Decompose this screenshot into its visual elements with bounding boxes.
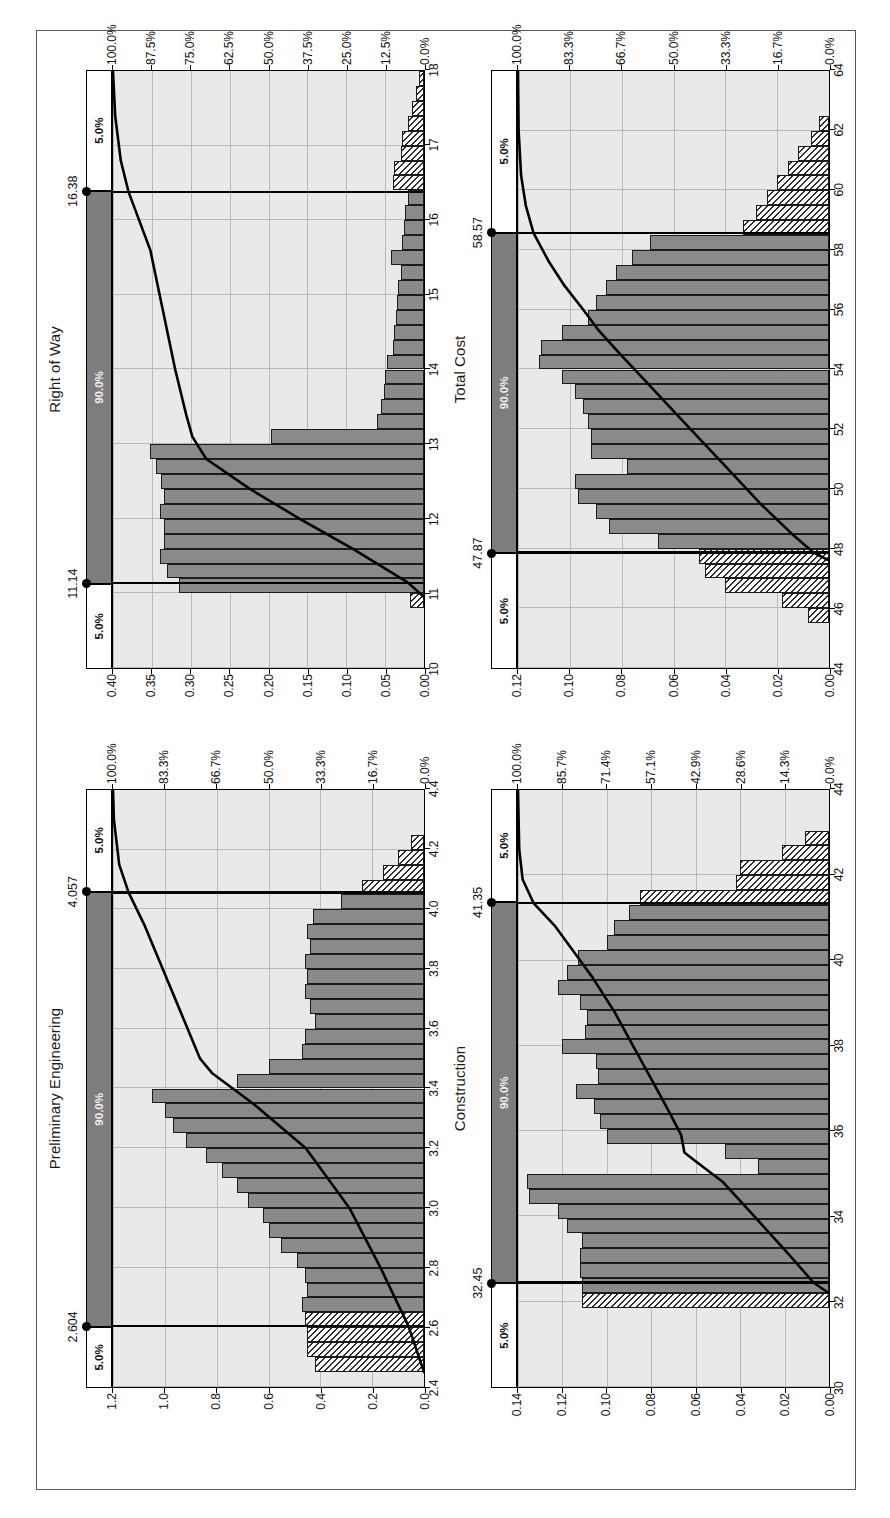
y-axis-cumulative-tick (308, 65, 309, 70)
y-axis-density-tick (373, 1388, 374, 1393)
x-axis-tick-label: 13 (427, 438, 441, 451)
y-axis-density-tick (621, 669, 622, 674)
y-axis-density-tick-label: 1.2 (105, 1393, 119, 1410)
x-axis-tick-label: 64 (832, 63, 846, 76)
y-axis-cumulative-tick-label: 83.3% (562, 31, 576, 65)
y-axis-density-tick-label: 0.2 (366, 1393, 380, 1410)
y-axis-cumulative-tick (621, 65, 622, 70)
percentile-marker-p5 (113, 1325, 424, 1327)
y-axis-cumulative-tick (517, 784, 518, 789)
percentile-value-p95: 41.35 (471, 887, 485, 918)
y-axis-density-tick-label: 0.12 (510, 674, 524, 697)
percentile-marker-p5 (113, 582, 424, 584)
x-axis-tick-label: 4.2 (427, 841, 441, 858)
cumulative-probability-curve (113, 790, 424, 1387)
x-axis-tick-label: 3.6 (427, 1020, 441, 1037)
plot-wrapper: 0.000.050.100.150.200.250.300.350.400.0%… (112, 70, 425, 669)
y-axis-cumulative-tick (164, 784, 165, 789)
band-middle-label: 90.0% (93, 371, 105, 404)
y-axis-density-tick (269, 669, 270, 674)
panel-plot-column: 32.4541.355.0%90.0%5.0%0.000.020.040.060… (471, 789, 850, 1388)
band-middle: 90.0% (491, 233, 517, 553)
y-axis-density-tick-label: 0.20 (262, 674, 276, 697)
x-axis-tick-label: 10 (427, 662, 441, 675)
four-panel-figure: Preliminary Engineering2.6044.0575.0%90.… (36, 0, 854, 1458)
y-axis-density-tick-label: 0.00 (823, 1393, 837, 1416)
y-axis-cumulative-tick-label: 12.5% (379, 31, 393, 65)
y-axis-cumulative-tick-label: 100.0% (510, 743, 524, 784)
cumulative-probability-curve (518, 790, 829, 1387)
x-axis-tick-label: 50 (832, 483, 846, 496)
y-axis-cumulative-tick-label: 14.3% (778, 750, 792, 784)
y-axis-cumulative-tick-label: 100.0% (105, 24, 119, 65)
x-axis-tick-label: 4.4 (427, 781, 441, 798)
y-axis-cumulative-tick-label: 50.0% (667, 31, 681, 65)
y-axis-density-tick (386, 669, 387, 674)
y-axis-cumulative-percent: 0.0%12.5%25.0%37.5%50.0%62.5%75.0%87.5%1… (112, 18, 425, 70)
band-middle: 90.0% (86, 892, 112, 1327)
y-axis-density-tick (112, 669, 113, 674)
y-axis-cumulative-tick-label: 16.7% (771, 31, 785, 65)
percentile-marker-p5-dot (487, 549, 496, 558)
x-axis-tick-label: 15 (427, 288, 441, 301)
y-axis-cumulative-tick (386, 65, 387, 70)
y-axis-density: 0.000.020.040.060.080.100.120.14 (517, 1388, 830, 1434)
y-axis-cumulative-percent: 0.0%14.3%28.6%42.9%57.1%71.4%85.7%100.0% (517, 737, 830, 789)
x-axis-tick-label: 14 (427, 363, 441, 376)
band-lower-tail-label: 5.0% (498, 1322, 510, 1348)
percentile-marker-p5-dot (487, 1279, 496, 1288)
percentile-value-p5: 47.87 (471, 537, 485, 568)
plot-wrapper: 0.000.020.040.060.080.100.120.0%16.7%33.… (517, 70, 830, 669)
y-axis-density-tick (562, 1388, 563, 1393)
band-upper-tail: 5.0% (491, 789, 517, 902)
y-axis-cumulative-tick-label: 0.0% (823, 38, 837, 65)
panel-row-top: Preliminary Engineering2.6044.0575.0%90.… (42, 10, 447, 1448)
y-axis-density-tick-label: 1.0 (157, 1393, 171, 1410)
y-axis-density-tick-label: 0.10 (340, 674, 354, 697)
x-axis-tick-label: 3.8 (427, 960, 441, 977)
x-axis-tick-label: 60 (832, 183, 846, 196)
y-axis-density-tick-label: 0.12 (555, 1393, 569, 1416)
y-axis-density: 0.000.020.040.060.080.100.12 (517, 669, 830, 715)
y-axis-cumulative-tick (112, 784, 113, 789)
y-axis-cumulative-tick-label: 25.0% (340, 31, 354, 65)
band-middle: 90.0% (86, 191, 112, 583)
x-axis-tick-label: 42 (832, 868, 846, 881)
y-axis-cumulative-tick (347, 65, 348, 70)
percentile-value-p5: 2.604 (66, 1311, 80, 1342)
y-axis-density-tick-label: 0.00 (823, 674, 837, 697)
y-axis-cumulative-tick (112, 65, 113, 70)
y-axis-density-tick (190, 669, 191, 674)
panel-right-of-way: Right of Way11.1416.385.0%90.0%5.0%0.000… (42, 10, 447, 729)
y-axis-density-tick-label: 0.08 (614, 674, 628, 697)
y-axis-density-tick-label: 0.14 (510, 1393, 524, 1416)
x-axis: 4446485052545658606264 (830, 70, 850, 669)
plot-wrapper: 0.00.20.40.60.81.01.20.0%16.7%33.3%50.0%… (112, 789, 425, 1388)
percentile-value-p5: 32.45 (471, 1268, 485, 1299)
x-axis-tick-label: 2.6 (427, 1320, 441, 1337)
x-axis-tick-label: 48 (832, 543, 846, 556)
y-axis-density-tick (229, 669, 230, 674)
y-axis-cumulative-tick (569, 65, 570, 70)
percentile-value-row: 32.4541.35 (471, 789, 491, 1388)
y-axis-density-tick (726, 669, 727, 674)
y-axis-cumulative-tick (269, 784, 270, 789)
y-axis-density-tick (216, 1388, 217, 1393)
x-axis-tick-label: 11 (427, 588, 441, 600)
band-upper-tail: 5.0% (86, 70, 112, 191)
x-axis-tick-label: 62 (832, 123, 846, 136)
percentile-marker-p95 (113, 891, 424, 893)
y-axis-density-tick (651, 1388, 652, 1393)
y-axis-density-tick (164, 1388, 165, 1393)
y-axis-cumulative-tick-label: 100.0% (510, 24, 524, 65)
panel-title: Preliminary Engineering (44, 741, 66, 1436)
x-axis-tick-label: 38 (832, 1039, 846, 1052)
band-lower-tail: 5.0% (86, 584, 112, 669)
band-upper-tail: 5.0% (86, 789, 112, 892)
y-axis-cumulative-tick-label: 71.4% (599, 750, 613, 784)
panel-title: Total Cost (449, 22, 471, 717)
plot-wrapper: 0.000.020.040.060.080.100.120.140.0%14.3… (517, 789, 830, 1388)
y-axis-density-tick-label: 0.02 (771, 674, 785, 697)
y-axis-cumulative-tick (674, 65, 675, 70)
panel-title: Construction (449, 741, 471, 1436)
